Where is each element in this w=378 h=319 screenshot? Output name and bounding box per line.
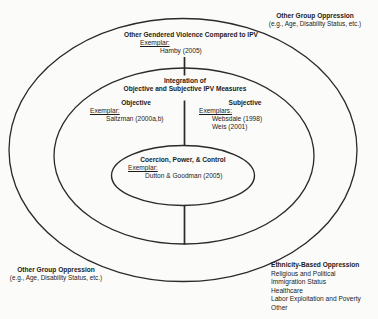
subjective-exemplar-citation-2: Weis (2001) bbox=[212, 123, 291, 131]
ethnicity-item-labor-exploitation: Labor Exploitation and Poverty bbox=[271, 295, 377, 304]
ethnicity-oppression-block: Ethnicity-Based Oppression Religious and… bbox=[271, 261, 377, 313]
core-exemplar-citation: Dutton & Goodman (2005) bbox=[145, 172, 240, 180]
subjective-exemplar-citation-1: Websdale (1998) bbox=[212, 115, 291, 123]
core-title: Coercion, Power, & Control bbox=[126, 156, 240, 164]
outer-ellipse bbox=[9, 19, 357, 282]
integration-title-line2: Objective and Subjective IPV Measures bbox=[108, 85, 262, 93]
gendered-violence-block: Other Gendered Violence Compared to IPV … bbox=[114, 31, 268, 55]
core-exemplar-label: Exemplar: bbox=[128, 164, 240, 172]
subjective-title: Subjective bbox=[199, 99, 291, 107]
top-right-oppression-subtitle: (e.g., Age, Disability Status, etc.) bbox=[254, 20, 376, 28]
gendered-violence-title: Other Gendered Violence Compared to IPV bbox=[114, 31, 268, 39]
gendered-exemplar-label: Exemplar: bbox=[140, 39, 268, 47]
ethnicity-item-immigration-status: Immigration Status bbox=[271, 278, 377, 287]
top-right-oppression-label: Other Group Oppression (e.g., Age, Disab… bbox=[254, 12, 376, 28]
integration-heading: Integration of Objective and Subjective … bbox=[108, 77, 262, 93]
ethnicity-oppression-title: Ethnicity-Based Oppression bbox=[271, 261, 377, 270]
core-block: Coercion, Power, & Control Exemplar: Dut… bbox=[126, 156, 240, 180]
objective-exemplar-citation: Saltzman (2000a,b) bbox=[106, 115, 182, 123]
objective-title: Objective bbox=[90, 99, 182, 107]
ethnicity-item-healthcare: Healthcare bbox=[271, 287, 377, 296]
top-right-oppression-title: Other Group Oppression bbox=[254, 12, 376, 20]
ecological-ipv-diagram: Other Group Oppression (e.g., Age, Disab… bbox=[0, 0, 378, 319]
bottom-left-oppression-label: Other Group Oppression (e.g., Age, Disab… bbox=[0, 266, 112, 282]
objective-exemplar-label: Exemplar: bbox=[90, 107, 182, 115]
ethnicity-item-religious-political: Religious and Political bbox=[271, 270, 377, 279]
integration-title-line1: Integration of bbox=[108, 77, 262, 85]
ethnicity-item-other: Other bbox=[271, 304, 377, 313]
subjective-block: Subjective Exemplars: Websdale (1998) We… bbox=[199, 99, 291, 131]
subjective-exemplar-label: Exemplars: bbox=[199, 107, 291, 115]
bottom-left-oppression-title: Other Group Oppression bbox=[0, 266, 112, 274]
gendered-exemplar-citation: Hamby (2005) bbox=[160, 47, 268, 55]
bottom-left-oppression-subtitle: (e.g., Age, Disability Status, etc.) bbox=[0, 274, 112, 282]
objective-block: Objective Exemplar: Saltzman (2000a,b) bbox=[90, 99, 182, 123]
